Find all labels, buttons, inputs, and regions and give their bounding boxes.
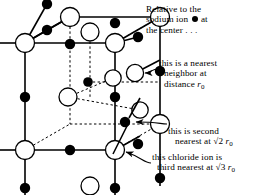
note-c-r-subscript: 0 — [229, 140, 233, 148]
chloride-ion — [106, 34, 125, 53]
chloride-ion — [105, 70, 121, 86]
note-c-line1: this is second — [168, 126, 263, 136]
figure-root: Relative to the sodium ion at the center… — [0, 0, 263, 195]
sodium-ion — [65, 145, 75, 155]
relative-to-sodium-note: Relative to the sodium ion at the center… — [146, 4, 262, 35]
sodium-ion-center — [83, 77, 93, 87]
third-nearest-note: this chloride ion is third nearest at √3… — [152, 152, 263, 175]
note-c-line2: nearest at √2 r0 — [168, 136, 263, 148]
note-b-line1: this is a nearest — [159, 58, 263, 68]
chloride-ion — [16, 34, 35, 53]
sodium-ion — [133, 139, 143, 149]
chloride-ion — [81, 23, 99, 41]
note-d-line2-pre: third nearest at — [157, 162, 216, 172]
note-a-line3: the center . . . — [146, 25, 262, 35]
second-nearest-note: this is second nearest at √2 r0 — [168, 126, 263, 149]
sodium-ion — [110, 183, 120, 193]
sodium-ion — [65, 39, 75, 49]
note-b-line3: distance r0 — [159, 79, 263, 91]
sqrt2-symbol: √2 — [213, 136, 223, 146]
chloride-ion — [59, 88, 77, 106]
nearest-neighbor-note: this is a nearest neighbor at distance r… — [159, 58, 263, 91]
sqrt3-symbol: √3 — [216, 162, 226, 172]
chloride-ion-nearest-neighbor — [126, 64, 143, 81]
chloride-ion — [16, 141, 35, 160]
note-b-line2: neighbor at — [159, 68, 263, 78]
note-a-line2-post: at — [201, 14, 208, 24]
note-a-line2-pre: sodium ion — [146, 14, 188, 24]
sodium-ion — [42, 0, 52, 9]
note-d-line2: third nearest at √3 r0 — [152, 162, 263, 174]
sodium-ion — [133, 32, 143, 42]
note-b-r-subscript: 0 — [201, 82, 205, 90]
sodium-ion — [20, 183, 30, 193]
note-c-line2-pre: nearest at — [175, 136, 213, 146]
note-d-line1: this chloride ion is — [152, 152, 263, 162]
note-d-r-subscript: 0 — [232, 166, 236, 174]
sodium-ion — [110, 92, 120, 102]
sodium-dot-glyph-icon — [192, 16, 198, 22]
note-b-line3-pre: distance — [164, 79, 197, 89]
sodium-ion — [110, 18, 120, 28]
chloride-ion — [81, 177, 99, 195]
note-a-line2: sodium ion at — [146, 14, 262, 24]
sodium-ion — [42, 25, 52, 35]
leader-third-nearest — [126, 152, 151, 163]
sodium-ion-second-nearest — [120, 117, 130, 127]
chloride-ion — [61, 8, 80, 27]
note-a-line1: Relative to the — [146, 4, 262, 14]
sodium-ion — [20, 92, 30, 102]
